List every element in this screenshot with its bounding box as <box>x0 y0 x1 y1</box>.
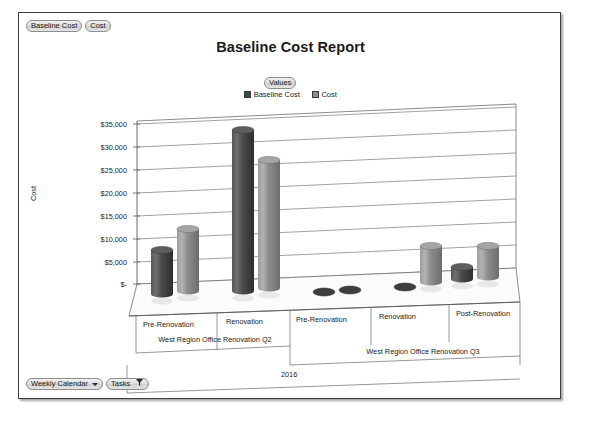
chart-3d-column: $35,000 $30,000 $25,000 $20,000 $15,000 … <box>19 13 562 400</box>
y-tick-20000: $20,000 <box>71 189 127 198</box>
tasks-label: Tasks <box>111 378 130 390</box>
bar-baseline-cost-1 <box>151 246 173 304</box>
weekly-calendar-dropdown[interactable]: Weekly Calendar <box>26 378 103 390</box>
y-tick-15000: $15,000 <box>71 212 127 221</box>
group-label-q3: West Region Office Renovation Q3 <box>325 347 521 356</box>
category-label-2: Renovation <box>226 317 263 326</box>
bar-baseline-cost-4 <box>394 283 416 291</box>
category-label-1: Pre-Renovation <box>143 320 194 329</box>
bar-cost-2 <box>258 156 280 298</box>
bar-baseline-cost-5 <box>451 263 473 289</box>
category-label-4: Renovation <box>379 312 416 321</box>
y-tick-30000: $30,000 <box>71 143 127 152</box>
y-tick-25000: $25,000 <box>71 166 127 175</box>
y-tick-5000: $5,000 <box>71 258 127 267</box>
report-panel: Baseline Cost Cost Baseline Cost Report … <box>18 12 561 399</box>
chart-back-wall-top <box>137 104 516 121</box>
y-tick-0: $- <box>71 280 127 289</box>
bar-cost-1 <box>177 225 199 301</box>
bar-baseline-cost-3 <box>313 288 335 296</box>
group-label-q2: West Region Office Renovation Q2 <box>137 335 293 344</box>
chevron-down-icon <box>92 383 98 386</box>
y-axis-title: Cost <box>29 174 38 214</box>
category-label-5: Post-Renovation <box>456 309 510 318</box>
bottom-button-bar: Weekly Calendar Tasks <box>26 378 149 390</box>
tasks-button[interactable]: Tasks <box>106 378 149 390</box>
bar-baseline-cost-2 <box>232 126 254 301</box>
bar-cost-3 <box>339 286 361 294</box>
chart-y-ticks <box>133 124 140 284</box>
category-label-3: Pre-Renovation <box>296 315 347 324</box>
year-label: 2016 <box>281 370 297 379</box>
weekly-calendar-label: Weekly Calendar <box>31 378 88 390</box>
screenshot-root: Baseline Cost Cost Baseline Cost Report … <box>0 0 589 426</box>
y-tick-35000: $35,000 <box>71 120 127 129</box>
y-tick-10000: $10,000 <box>71 235 127 244</box>
filter-funnel-icon <box>135 378 144 391</box>
